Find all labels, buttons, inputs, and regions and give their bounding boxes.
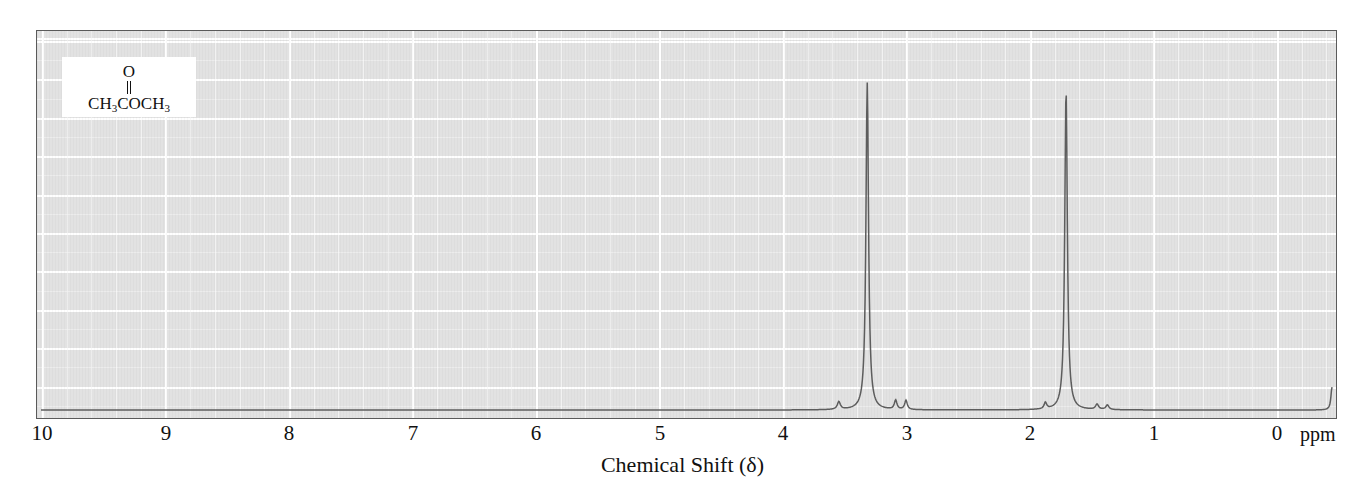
x-axis-tick-1: 1 (1149, 421, 1160, 446)
formula-subscript-left: 3 (112, 102, 118, 114)
x-axis-tick-3: 3 (902, 421, 913, 446)
formula-subscript-right: 3 (164, 102, 170, 114)
x-axis-unit-label: ppm (1300, 423, 1336, 446)
formula-segment-mid: COCH (117, 94, 164, 113)
nmr-spectrum-figure: O CH3COCH3 109876543210ppm Chemical Shif… (0, 0, 1365, 495)
x-axis-tick-6: 6 (531, 421, 542, 446)
x-axis-tick-8: 8 (284, 421, 295, 446)
plot-area: O CH3COCH3 (36, 30, 1337, 419)
x-axis-tick-row: 109876543210ppm (0, 419, 1365, 453)
x-axis-tick-7: 7 (408, 421, 419, 446)
formula-segment-left: CH (88, 94, 112, 113)
x-axis-tick-2: 2 (1025, 421, 1036, 446)
x-axis-tick-10: 10 (32, 421, 53, 446)
x-axis-title: Chemical Shift (δ) (0, 452, 1365, 478)
x-axis-tick-4: 4 (778, 421, 789, 446)
oxygen-atom-label: O (123, 63, 135, 80)
x-axis-tick-0: 0 (1272, 421, 1283, 446)
spectrum-trace (37, 31, 1336, 418)
x-axis-tick-5: 5 (655, 421, 666, 446)
x-axis-tick-9: 9 (161, 421, 172, 446)
double-bond-icon (127, 81, 131, 94)
structure-annotation: O CH3COCH3 (62, 57, 196, 117)
spectrum-trace-path (41, 82, 1332, 410)
molecular-formula-label: CH3COCH3 (88, 95, 170, 112)
